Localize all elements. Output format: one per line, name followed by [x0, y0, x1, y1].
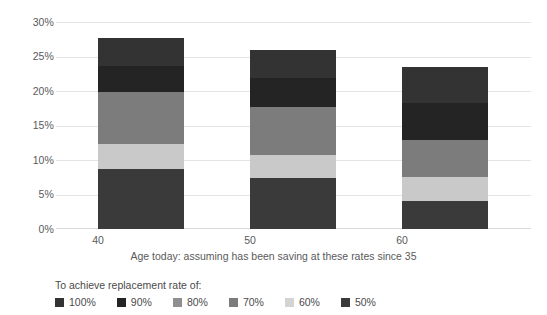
legend-label-90: 90%	[131, 297, 152, 307]
bar-segment-90-40	[98, 66, 184, 92]
bar-age-60	[402, 67, 488, 229]
bar-age-40	[98, 38, 184, 229]
y-axis-tick-0: 0%	[14, 224, 54, 234]
legend-swatch-icon-50	[341, 298, 350, 307]
bar-segment-100-40	[98, 38, 184, 66]
legend-item-90[interactable]: 90%	[117, 297, 152, 307]
y-axis-tick-30: 30%	[14, 17, 54, 27]
legend-swatch-icon-90	[117, 298, 126, 307]
legend-title: To achieve replacement rate of:	[55, 279, 202, 291]
bar-segment-50-50	[250, 178, 336, 229]
legend-item-60[interactable]: 60%	[285, 297, 320, 307]
legend-swatch-icon-60	[285, 298, 294, 307]
y-axis-tick-10: 10%	[14, 155, 54, 165]
legend-swatch-icon-80	[173, 298, 182, 307]
legend-label-70: 70%	[243, 297, 264, 307]
legend: 100% 90% 80% 70% 60% 50%	[55, 297, 397, 307]
y-axis-tick-5: 5%	[14, 189, 54, 199]
y-axis-tick-15: 15%	[14, 120, 54, 130]
plot-area	[56, 22, 531, 229]
x-axis-category-60: 60	[342, 234, 462, 246]
bar-segment-70-60	[402, 140, 488, 177]
bar-segment-90-60	[402, 103, 488, 140]
legend-item-100[interactable]: 100%	[55, 297, 96, 307]
legend-label-60: 60%	[299, 297, 320, 307]
y-axis-tick-25: 25%	[14, 51, 54, 61]
bar-segment-100-50	[250, 50, 336, 78]
bar-segment-90-50	[250, 78, 336, 107]
legend-swatch-icon-100	[55, 298, 64, 307]
x-axis-category-40: 40	[38, 234, 158, 246]
bar-segment-100-60	[402, 67, 488, 103]
bar-segment-70-50	[250, 107, 336, 155]
bar-segment-70-40	[98, 92, 184, 144]
bar-segment-60-40	[98, 144, 184, 169]
legend-swatch-icon-70	[229, 298, 238, 307]
bar-segment-60-50	[250, 155, 336, 178]
bar-segment-50-40	[98, 169, 184, 229]
x-axis-category-50: 50	[190, 234, 310, 246]
legend-label-80: 80%	[187, 297, 208, 307]
gridline-30	[56, 22, 531, 23]
legend-label-50: 50%	[355, 297, 376, 307]
y-axis-tick-20: 20%	[14, 86, 54, 96]
bar-segment-60-60	[402, 177, 488, 200]
legend-label-100: 100%	[69, 297, 96, 307]
legend-item-80[interactable]: 80%	[173, 297, 208, 307]
legend-item-50[interactable]: 50%	[341, 297, 376, 307]
legend-item-70[interactable]: 70%	[229, 297, 264, 307]
stacked-bar-chart: 30% 25% 20% 15% 10% 5% 0% 40 50 60 Age t…	[0, 0, 547, 315]
x-axis-title: Age today: assuming has been saving at t…	[0, 250, 547, 262]
bar-age-50	[250, 50, 336, 229]
bar-segment-50-60	[402, 201, 488, 229]
